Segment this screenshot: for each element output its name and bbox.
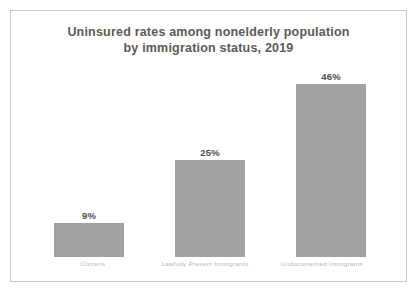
bar-value-undocumented-immigrants: 46% <box>296 71 366 82</box>
category-label-citizens: Citizens <box>30 260 156 267</box>
category-label-lawfully-present-immigrants: Lawfully Present Immigrants <box>142 260 268 267</box>
plot-area: 9% 25% 46% <box>14 62 403 257</box>
bar-value-citizens: 9% <box>54 210 124 221</box>
category-label-undocumented-immigrants: Undocumented Immigrants <box>259 260 385 267</box>
bar-citizens[interactable] <box>54 223 124 257</box>
bar-group-citizens: 9% <box>54 62 124 257</box>
chart-canvas: Uninsured rates among nonelderly populat… <box>0 0 419 293</box>
bar-wrap-undocumented-immigrants: 46% <box>296 84 366 257</box>
chart-title-line-1: Uninsured rates among nonelderly populat… <box>20 24 397 40</box>
chart-title: Uninsured rates among nonelderly populat… <box>20 24 397 56</box>
chart-title-line-2: by immigration status, 2019 <box>20 40 397 56</box>
bar-undocumented-immigrants[interactable] <box>296 84 366 257</box>
bar-wrap-lawfully-present-immigrants: 25% <box>175 160 245 257</box>
bar-group-undocumented-immigrants: 46% <box>296 62 366 257</box>
bar-wrap-citizens: 9% <box>54 223 124 257</box>
bar-lawfully-present-immigrants[interactable] <box>175 160 245 257</box>
bar-value-lawfully-present-immigrants: 25% <box>175 147 245 158</box>
bar-group-lawfully-present-immigrants: 25% <box>175 62 245 257</box>
